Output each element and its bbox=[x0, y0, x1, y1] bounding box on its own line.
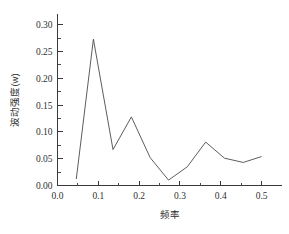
x-axis-ticks bbox=[58, 181, 262, 186]
y-tick-label: 0.00 bbox=[36, 181, 53, 191]
x-tick-label: 0.3 bbox=[174, 191, 186, 201]
data-series-group bbox=[76, 39, 261, 180]
y-tick-label: 0.15 bbox=[36, 101, 53, 111]
axes-group bbox=[58, 14, 283, 186]
y-axis-title: 波动强度(w) bbox=[9, 73, 20, 126]
y-tick-label: 0.10 bbox=[36, 127, 53, 137]
chart-figure: 0.00.10.20.30.40.5 0.000.050.100.150.200… bbox=[0, 0, 289, 234]
y-axis-tick-labels: 0.000.050.100.150.200.250.30 bbox=[36, 20, 53, 191]
y-tick-label: 0.20 bbox=[36, 74, 53, 84]
x-axis-title: 频率 bbox=[160, 209, 180, 220]
x-tick-label: 0.0 bbox=[52, 191, 64, 201]
data-series-line bbox=[76, 39, 261, 180]
y-tick-label: 0.25 bbox=[36, 47, 53, 57]
line-chart-plot: 0.00.10.20.30.40.5 0.000.050.100.150.200… bbox=[0, 0, 289, 234]
x-axis-tick-labels: 0.00.10.20.30.40.5 bbox=[52, 191, 268, 201]
y-axis-ticks bbox=[58, 25, 63, 186]
y-tick-label: 0.30 bbox=[36, 20, 53, 30]
x-tick-label: 0.2 bbox=[133, 191, 145, 201]
x-tick-label: 0.4 bbox=[215, 191, 227, 201]
x-tick-label: 0.1 bbox=[92, 191, 104, 201]
y-tick-label: 0.05 bbox=[36, 154, 53, 164]
x-tick-label: 0.5 bbox=[256, 191, 268, 201]
